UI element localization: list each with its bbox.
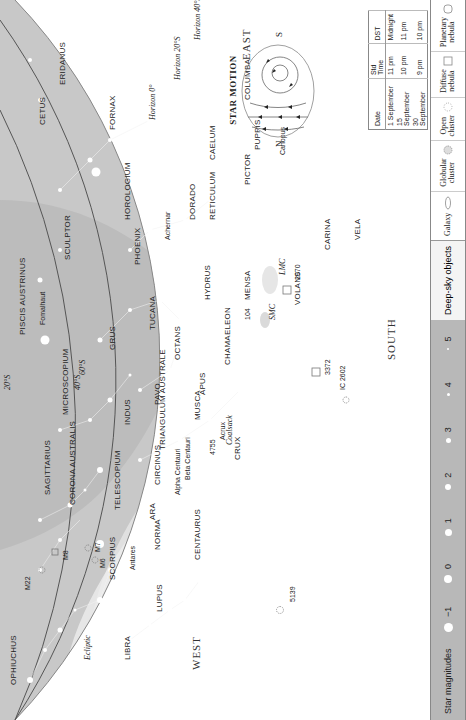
label-reticulum: RETICULUM — [208, 171, 217, 220]
label-lat-60: 60°S — [78, 360, 87, 375]
label-alpha-centauri: Alpha Centauri — [174, 448, 182, 495]
table-row: 1 September 11 pm Midnight — [386, 11, 396, 130]
label-caelum: CAELUM — [208, 125, 217, 160]
label-m6: M6 — [99, 558, 106, 568]
dso-galaxy: Galaxy — [431, 191, 465, 240]
dso-globular-cluster: Globular cluster — [431, 140, 465, 190]
label-m7: M7 — [94, 542, 101, 552]
star-dot-icon — [447, 393, 450, 396]
magnitude-item: −1 — [443, 596, 453, 642]
label-horizon-40: Horizon 40°S — [193, 0, 202, 41]
label-ara: ARA — [148, 502, 157, 520]
label-eridanus: ERIDANUS — [58, 42, 67, 85]
label-mensa: MENSA — [243, 270, 252, 300]
label-crux: CRUX — [233, 436, 242, 460]
deep-sky-title: Deep-sky objects — [431, 240, 465, 320]
label-cetus: CETUS — [38, 97, 47, 125]
star-motion-diagram: N S — [238, 25, 318, 155]
label-achernar: Achernar — [164, 211, 171, 240]
label-horizon-0: Horizon 0° — [148, 84, 157, 121]
label-corona-australis: CORONA AUSTRALIS — [68, 421, 77, 505]
star-map: OPHIUCHUS LIBRA SCORPIUS LUPUS CENTAURUS… — [0, 0, 400, 720]
magnitude-item: 3 — [443, 412, 453, 458]
star-motion-inset: Star motion N S — [228, 25, 322, 155]
label-tucana: TUCANA — [148, 295, 157, 330]
header-dst: DST — [369, 11, 386, 44]
label-chamaeleon: CHAMAELEON — [223, 307, 232, 365]
star-dot-icon — [444, 623, 453, 632]
label-4755: 4755 — [209, 439, 216, 455]
label-dorado: DORADO — [188, 184, 197, 220]
label-pavo: PAVO — [153, 383, 162, 405]
magnitude-item: 0 — [443, 550, 453, 596]
dso-open-cluster: Open cluster — [431, 97, 465, 140]
label-beta-centauri: Beta Centauri — [184, 437, 191, 480]
label-microscopium: MICROSCOPIUM — [61, 348, 70, 415]
label-fornax: FORNAX — [108, 95, 117, 130]
label-scorpius: SCORPIUS — [108, 537, 117, 580]
star-dot-icon — [446, 438, 451, 443]
label-pictor: PICTOR — [243, 154, 252, 185]
label-5139: 5139 — [289, 586, 296, 602]
dotted-circle-icon — [443, 145, 453, 155]
label-m22: M22 — [24, 576, 31, 590]
label-octans: OCTANS — [173, 326, 182, 360]
label-m8: M8 — [62, 550, 69, 560]
label-piscis-austrinus: PISCIS AUSTRINUS — [18, 258, 27, 335]
label-2070: 2070 — [294, 264, 301, 280]
label-apus: APUS — [198, 372, 207, 395]
label-ophiuchus: OPHIUCHUS — [9, 635, 18, 685]
label-south: SOUTH — [385, 318, 397, 360]
label-horizon-20: Horizon 20°S — [173, 37, 182, 81]
label-104: 104 — [244, 308, 251, 320]
label-centaurus: CENTAURUS — [193, 509, 202, 560]
label-south-motion: S — [274, 32, 284, 37]
table-row: 30 September 9 pm 10 pm — [411, 11, 428, 130]
header-std-time: Std Time — [369, 44, 386, 79]
magnitude-item: 2 — [443, 458, 453, 504]
magnitude-item: 5 — [443, 320, 453, 366]
label-indus: INDUS — [123, 399, 132, 425]
label-telescopium: TELESCOPIUM — [113, 450, 122, 510]
header-date: Date — [369, 79, 386, 130]
label-lat-20: 20°S — [3, 375, 12, 390]
star-dot-icon — [447, 348, 449, 350]
label-north: N — [274, 140, 284, 147]
label-antares: Antares — [129, 545, 136, 570]
label-lmc: LMC — [278, 258, 287, 276]
label-ic2602: IC 2602 — [339, 365, 346, 390]
lmc-cloud — [262, 266, 278, 294]
star-dot-icon — [444, 575, 452, 583]
star-dot-icon — [445, 484, 451, 490]
dot-cluster-icon — [443, 102, 453, 112]
rounded-square-icon — [443, 4, 453, 14]
square-icon — [443, 56, 453, 66]
label-hydrus: HYDRUS — [203, 265, 212, 300]
label-smc: SMC — [268, 303, 277, 320]
label-fomalhaut: Fomalhaut — [39, 292, 46, 325]
label-carina: CARINA — [323, 218, 332, 250]
star-motion-title: Star motion — [228, 25, 238, 155]
viewing-time-table: Date Std Time DST 1 September 11 pm Midn… — [368, 10, 428, 130]
table-row: 15 September 10 pm 11 pm — [395, 11, 411, 130]
ellipse-icon — [444, 196, 452, 210]
label-libra: LIBRA — [123, 635, 132, 660]
dso-diffuse-nebula: Diffuse nebula — [431, 51, 465, 97]
label-circinus: CIRCINUS — [153, 445, 162, 485]
legend-strip: Star magnitudes −1 0 1 2 3 4 5 Deep-sky … — [430, 0, 466, 720]
label-west: WEST — [190, 636, 202, 670]
label-3372: 3372 — [324, 359, 331, 375]
label-horologium: HOROLOGIUM — [123, 162, 132, 220]
label-norma: NORMA — [153, 519, 162, 550]
label-ecliptic: Ecliptic — [83, 635, 92, 661]
magnitude-item: 4 — [443, 366, 453, 412]
label-vela: VELA — [353, 218, 362, 240]
label-lupus: LUPUS — [155, 584, 164, 612]
dso-planetary-nebula: Planetary nebula — [431, 0, 465, 51]
star-magnitudes-legend: Star magnitudes −1 0 1 2 3 4 5 — [431, 320, 465, 720]
label-sagittarius: SAGITTARIUS — [43, 440, 52, 495]
label-lat-40: 40°S — [73, 375, 82, 390]
label-sculptor: SCULPTOR — [63, 215, 72, 260]
star-dot-icon — [445, 529, 452, 536]
